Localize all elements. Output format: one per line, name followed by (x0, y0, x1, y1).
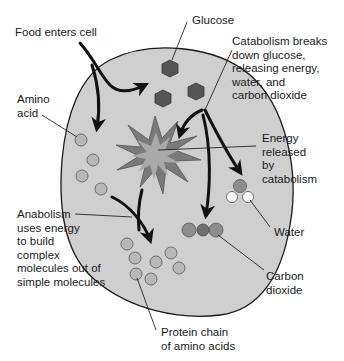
glucose-icon (188, 83, 204, 100)
label-glucose: Glucose (192, 14, 234, 26)
amino-acid-icon (95, 183, 107, 195)
label-water: Water (274, 226, 304, 238)
label-catabolism: Catabolism breaks down glucose, releasin… (231, 35, 330, 101)
amino-acid-icon (87, 154, 99, 166)
label-protein: Protein chain of amino acids (161, 326, 235, 352)
amino-acid-icon (76, 170, 88, 182)
metabolism-diagram: Food enters cell Glucose Catabolism brea… (0, 0, 344, 361)
label-co2: Carbon dioxide (266, 270, 307, 296)
glucose-icon (155, 90, 171, 107)
label-amino-acid: Amino acid (17, 93, 53, 119)
glucose-icon (162, 60, 178, 77)
co2-molecule (182, 223, 223, 237)
amino-acid-icon (75, 134, 87, 146)
label-food: Food enters cell (15, 26, 97, 38)
